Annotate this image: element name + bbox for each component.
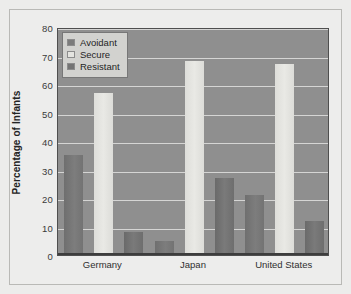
bar-united-states-secure	[275, 64, 294, 255]
y-tick-label: 40	[23, 137, 53, 148]
y-tick-label: 70	[23, 51, 53, 62]
legend-item-label: Secure	[80, 49, 110, 60]
legend-item-secure: Secure	[67, 49, 120, 60]
legend-item-resistant: Resistant	[67, 61, 120, 72]
y-tick-label: 20	[23, 194, 53, 205]
bar-japan-secure	[185, 61, 204, 255]
legend-item-avoidant: Avoidant	[67, 37, 120, 48]
y-tick-label: 10	[23, 222, 53, 233]
y-tick-label: 30	[23, 165, 53, 176]
plot-wrapper: 01020304050607080 AvoidantSecureResistan…	[57, 28, 329, 256]
legend-item-label: Avoidant	[80, 37, 117, 48]
y-axis-ticks: 01020304050607080	[23, 28, 53, 256]
legend-swatch-resistant-icon	[67, 63, 75, 70]
bar-germany-avoidant	[64, 155, 83, 255]
bar-japan-resistant	[215, 178, 234, 255]
x-tick-label: Japan	[180, 259, 206, 270]
x-axis-ticks: GermanyJapanUnited States	[57, 259, 329, 275]
y-tick-label: 80	[23, 23, 53, 34]
chart-figure: Percentage of Infants 01020304050607080 …	[0, 0, 351, 294]
bar-united-states-resistant	[305, 221, 324, 255]
legend-swatch-avoidant-icon	[67, 39, 75, 46]
y-tick-label: 60	[23, 80, 53, 91]
y-tick-label: 0	[23, 251, 53, 262]
chart-legend: AvoidantSecureResistant	[62, 32, 128, 78]
x-tick-label: United States	[255, 259, 312, 270]
legend-item-label: Resistant	[80, 61, 120, 72]
bar-germany-secure	[94, 93, 113, 255]
bar-united-states-avoidant	[245, 195, 264, 255]
legend-swatch-secure-icon	[67, 51, 75, 58]
x-axis-line	[58, 253, 328, 255]
x-tick-label: Germany	[83, 259, 122, 270]
y-axis-title-label: Percentage of Infants	[12, 90, 23, 194]
bar-germany-resistant	[124, 232, 143, 255]
y-tick-label: 50	[23, 108, 53, 119]
